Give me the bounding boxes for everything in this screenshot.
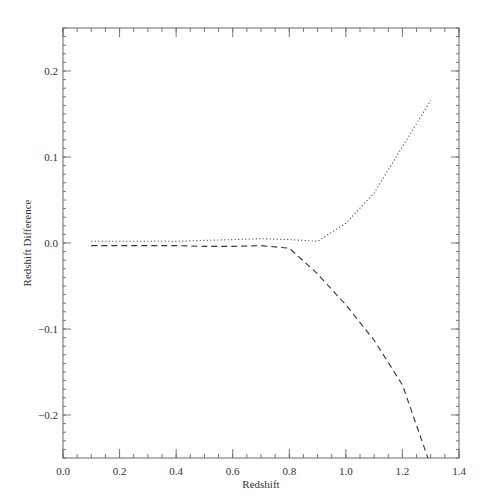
- x-tick-label: 1.2: [396, 465, 410, 477]
- plot-frame: [63, 28, 459, 458]
- y-tick-label: 0.1: [44, 151, 58, 163]
- y-tick-label: −0.1: [38, 323, 58, 335]
- x-tick-label: 1.0: [339, 465, 353, 477]
- dashed-series-line: [91, 246, 428, 458]
- y-tick-label: −0.2: [38, 409, 58, 421]
- x-tick-label: 0.8: [282, 465, 296, 477]
- y-tick-label: 0.2: [44, 65, 58, 77]
- x-tick-label: 1.4: [452, 465, 466, 477]
- minor-ticks: [63, 28, 459, 458]
- dotted-series-line: [91, 100, 430, 241]
- x-tick-label: 0.4: [169, 465, 183, 477]
- series-group: [91, 100, 430, 458]
- x-tick-label: 0.2: [113, 465, 127, 477]
- x-tick-label: 0.6: [226, 465, 240, 477]
- chart: 0.00.20.40.60.81.01.21.4 0.20.10.0−0.1−0…: [0, 0, 490, 500]
- y-tick-labels: 0.20.10.0−0.1−0.2: [38, 65, 58, 421]
- y-axis-label: Redshift Difference: [21, 199, 33, 286]
- y-tick-label: 0.0: [44, 237, 58, 249]
- x-axis-label: Redshift: [242, 478, 279, 490]
- x-tick-labels: 0.00.20.40.60.81.01.21.4: [56, 465, 466, 477]
- major-ticks: [63, 28, 459, 458]
- x-tick-label: 0.0: [56, 465, 70, 477]
